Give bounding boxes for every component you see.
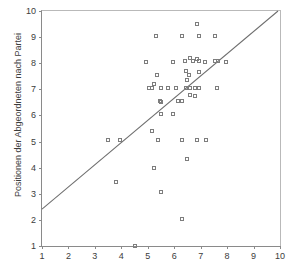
x-axis-tick-label: 5 [145, 252, 150, 261]
x-axis-tick-label: 9 [251, 252, 256, 261]
x-axis-tick-label: 8 [225, 252, 230, 261]
data-point [174, 86, 178, 90]
plot-area: 1234567891012345678910 [41, 10, 281, 247]
data-point [152, 166, 156, 170]
data-point [150, 129, 154, 133]
data-point [183, 59, 187, 63]
x-axis-tick-label: 7 [198, 252, 203, 261]
data-point [197, 70, 201, 74]
x-axis-tick [201, 246, 202, 249]
y-axis-tick-label: 5 [31, 137, 36, 146]
y-axis-tick [39, 37, 42, 38]
y-axis-tick-label: 4 [31, 163, 36, 172]
data-point [204, 138, 208, 142]
y-axis-tick-label: 7 [31, 85, 36, 94]
data-point [188, 93, 192, 97]
data-point [171, 112, 175, 116]
x-axis-tick [121, 246, 122, 249]
y-axis-tick-label: 2 [31, 215, 36, 224]
x-axis-tick-label: 3 [92, 252, 97, 261]
x-axis-tick [174, 246, 175, 249]
y-axis-tick [39, 220, 42, 221]
data-point [197, 34, 201, 38]
y-axis-tick-label: 10 [26, 7, 36, 16]
y-axis-label: Positionen der Abgeordneten nach Partei [13, 15, 23, 215]
data-point [118, 138, 122, 142]
data-point [185, 78, 189, 82]
data-point [166, 86, 170, 90]
y-axis-tick-label: 9 [31, 33, 36, 42]
data-point [154, 34, 158, 38]
data-point [180, 99, 184, 103]
x-axis-tick [280, 246, 281, 249]
data-point [195, 138, 199, 142]
y-axis-tick [39, 168, 42, 169]
x-axis-tick [148, 246, 149, 249]
scatter-plot-figure: Positionen der Wähler nach Partei Positi… [0, 0, 293, 269]
data-point [114, 180, 118, 184]
y-axis-tick [39, 142, 42, 143]
y-axis-tick [39, 115, 42, 116]
data-point [188, 86, 192, 90]
y-axis-tick [39, 194, 42, 195]
data-point [193, 94, 197, 98]
data-point [203, 60, 207, 64]
cut-off-title: Positionen der Wähler nach Partei [0, 0, 293, 5]
data-point [187, 73, 191, 77]
data-point [180, 217, 184, 221]
y-axis-tick [39, 63, 42, 64]
data-point [159, 112, 163, 116]
data-point [133, 244, 137, 248]
data-point [180, 138, 184, 142]
x-axis-tick-label: 6 [172, 252, 177, 261]
data-point [197, 86, 201, 90]
x-axis-tick [95, 246, 96, 249]
x-axis-tick-label: 10 [275, 252, 285, 261]
data-point [213, 34, 217, 38]
cut-off-title-text: Positionen der Wähler nach Partei [70, 0, 223, 2]
y-axis-tick-label: 1 [31, 242, 36, 251]
y-axis-tick [39, 89, 42, 90]
data-point [197, 59, 201, 63]
data-point [215, 86, 219, 90]
data-point [159, 86, 163, 90]
x-axis-tick-label: 1 [39, 252, 44, 261]
data-point [180, 34, 184, 38]
data-point [156, 138, 160, 142]
data-point [159, 100, 163, 104]
y-axis-tick-label: 3 [31, 189, 36, 198]
y-axis-tick [39, 11, 42, 12]
data-point [224, 60, 228, 64]
data-point [185, 157, 189, 161]
y-axis-tick-label: 6 [31, 111, 36, 120]
x-axis-tick [227, 246, 228, 249]
data-point [159, 190, 163, 194]
data-point [171, 60, 175, 64]
data-point [106, 138, 110, 142]
reference-line [42, 11, 280, 246]
x-axis-tick-label: 2 [66, 252, 71, 261]
data-point [216, 59, 220, 63]
x-axis-tick [68, 246, 69, 249]
x-axis-tick-label: 4 [119, 252, 124, 261]
y-axis-tick-label: 8 [31, 59, 36, 68]
data-point [155, 73, 159, 77]
x-axis-tick [254, 246, 255, 249]
data-point [144, 60, 148, 64]
data-point [195, 22, 199, 26]
x-axis-tick [42, 246, 43, 249]
data-point [150, 86, 154, 90]
